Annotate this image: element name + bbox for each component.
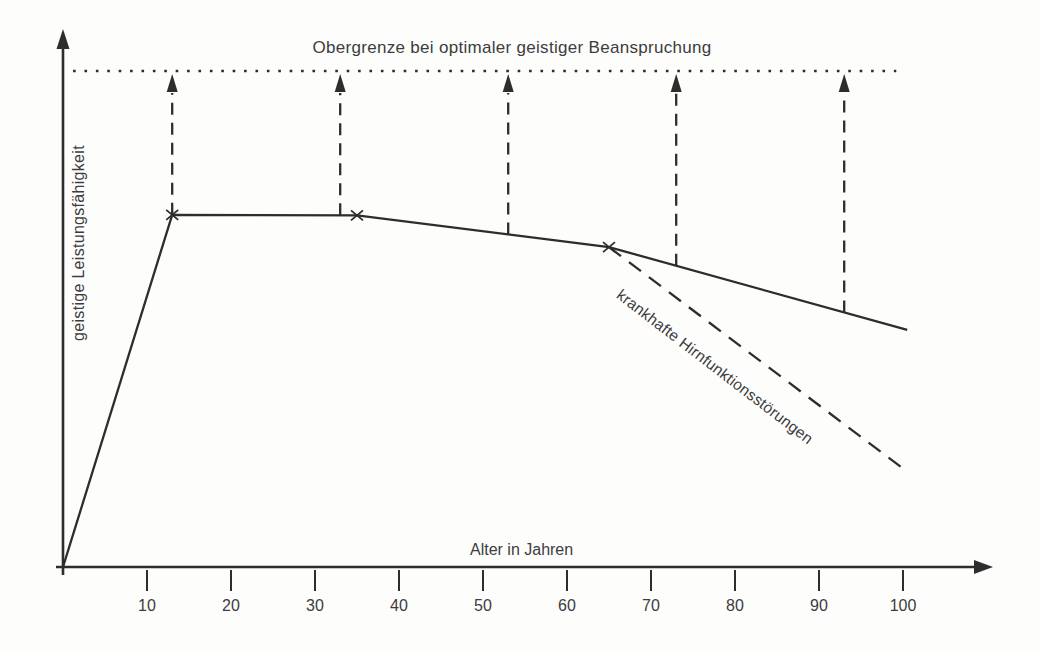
x-tick-label: 70 xyxy=(642,597,660,614)
x-tick-label: 40 xyxy=(390,597,408,614)
performance-curve xyxy=(63,215,907,567)
x-tick-label: 60 xyxy=(558,597,576,614)
x-tick-label: 10 xyxy=(138,597,156,614)
mental-performance-age-chart: 102030405060708090100 Obergrenze bei opt… xyxy=(0,0,1040,650)
x-tick-label: 30 xyxy=(306,597,324,614)
x-tick-label: 90 xyxy=(810,597,828,614)
x-axis-label: Alter in Jahren xyxy=(470,541,573,559)
x-tick-label: 20 xyxy=(222,597,240,614)
y-axis-label: geistige Leistungsfähigkeit xyxy=(70,145,88,341)
pathological-decline-line xyxy=(609,247,905,470)
x-tick-label: 100 xyxy=(890,597,917,614)
x-axis-arrow-head xyxy=(974,560,993,574)
x-tick-label: 80 xyxy=(726,597,744,614)
potential-arrow-head xyxy=(671,74,682,92)
potential-arrow-head xyxy=(335,74,346,92)
ceiling-line-label: Obergrenze bei optimaler geistiger Beans… xyxy=(312,38,711,58)
potential-arrow-head xyxy=(167,74,178,92)
potential-arrow-head xyxy=(839,74,850,92)
potential-arrow-head xyxy=(503,74,514,92)
x-tick-label: 50 xyxy=(474,597,492,614)
y-axis-arrow-head xyxy=(57,29,70,49)
